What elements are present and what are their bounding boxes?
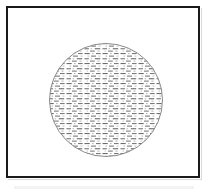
hatched-circle (48, 42, 164, 158)
circle-fill-group (48, 42, 164, 158)
scan-smudge-artifact (14, 186, 194, 189)
circle-hatch-fill (48, 42, 164, 158)
figure-root (0, 0, 210, 193)
circle-svg (48, 42, 164, 158)
